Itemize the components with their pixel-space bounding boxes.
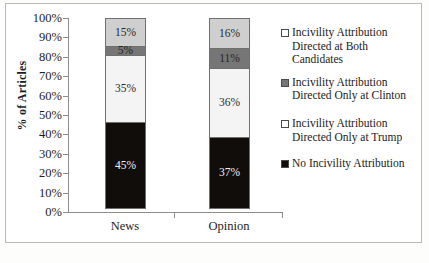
bar-segment-label: 35%: [115, 83, 136, 95]
bar-segment-label: 11%: [219, 53, 240, 65]
y-tick-label: 60%: [18, 90, 62, 103]
legend-label-line: Incivility Attribution: [292, 26, 388, 40]
bar-segment-no-attribution[interactable]: 45%: [105, 122, 146, 209]
legend-item-label: Incivility Attribution Directed Only at …: [292, 76, 406, 103]
legend-item-label: Incivility Attribution Directed at Both …: [292, 26, 388, 67]
y-tick-label: 10%: [18, 187, 62, 200]
bar-segment-both-candidates[interactable]: 16%: [209, 18, 250, 49]
legend-swatch-icon: [281, 120, 289, 128]
plot-area: 15% 5% 35% 45% 16% 11% 36% 37%: [68, 18, 281, 212]
y-tick-label: 70%: [18, 70, 62, 83]
legend-label-line: Directed Only at Trump: [292, 131, 402, 145]
bar-segment-only-clinton[interactable]: 11%: [209, 48, 250, 69]
y-tick-label: 20%: [18, 167, 62, 180]
x-tick-mark: [174, 213, 175, 218]
legend-item-both-candidates[interactable]: Incivility Attribution Directed at Both …: [281, 26, 426, 67]
bar-opinion[interactable]: 16% 11% 36% 37%: [209, 18, 250, 212]
bar-segment-label: 36%: [219, 97, 240, 109]
legend-swatch-icon: [281, 79, 289, 87]
legend-item-only-clinton[interactable]: Incivility Attribution Directed Only at …: [281, 76, 426, 103]
bar-segment-label: 16%: [219, 28, 240, 40]
bar-segment-label: 37%: [219, 167, 240, 179]
bar-news[interactable]: 15% 5% 35% 45%: [105, 18, 146, 212]
x-category-label-news: News: [80, 219, 170, 234]
legend-label-line: Incivility Attribution: [292, 117, 402, 131]
legend-label-line: Incivility Attribution: [292, 76, 406, 90]
bar-segment-both-candidates[interactable]: 15%: [105, 18, 146, 47]
bar-segment-only-trump[interactable]: 35%: [105, 55, 146, 123]
legend-label-line: No Incivility Attribution: [292, 157, 404, 171]
y-tick-label: 90%: [18, 31, 62, 44]
y-tick-label: 50%: [18, 109, 62, 122]
y-tick-label: 0%: [18, 206, 62, 219]
bar-segment-label: 45%: [115, 160, 136, 172]
legend-label-line: Directed Only at Clinton: [292, 89, 406, 103]
legend-swatch-icon: [281, 160, 289, 168]
x-axis-line: [68, 212, 283, 213]
legend-label-line: Candidates: [292, 53, 388, 67]
x-tick-mark: [282, 213, 283, 218]
y-tick-mark: [63, 212, 68, 213]
legend-label-line: Directed at Both: [292, 40, 388, 54]
y-tick-label: 80%: [18, 51, 62, 64]
bar-segment-no-attribution[interactable]: 37%: [209, 137, 250, 209]
x-category-label-opinion: Opinion: [184, 219, 274, 234]
legend-item-label: Incivility Attribution Directed Only at …: [292, 117, 402, 144]
legend-item-label: No Incivility Attribution: [292, 157, 404, 171]
legend-item-only-trump[interactable]: Incivility Attribution Directed Only at …: [281, 117, 426, 144]
y-tick-label: 30%: [18, 148, 62, 161]
legend-item-no-attribution[interactable]: No Incivility Attribution: [281, 157, 426, 171]
bar-segment-label: 15%: [115, 27, 136, 39]
legend-swatch-icon: [281, 29, 289, 37]
chart-legend: Incivility Attribution Directed at Both …: [281, 26, 426, 180]
y-axis-tick-labels: 100% 90% 80% 70% 60% 50% 40% 30% 20% 10%…: [12, 0, 62, 263]
y-tick-label: 40%: [18, 128, 62, 141]
y-tick-label: 100%: [18, 12, 62, 25]
chart-figure: % of Articles 100% 90% 80% 70% 60% 50% 4…: [0, 0, 429, 263]
bar-segment-only-trump[interactable]: 36%: [209, 68, 250, 138]
